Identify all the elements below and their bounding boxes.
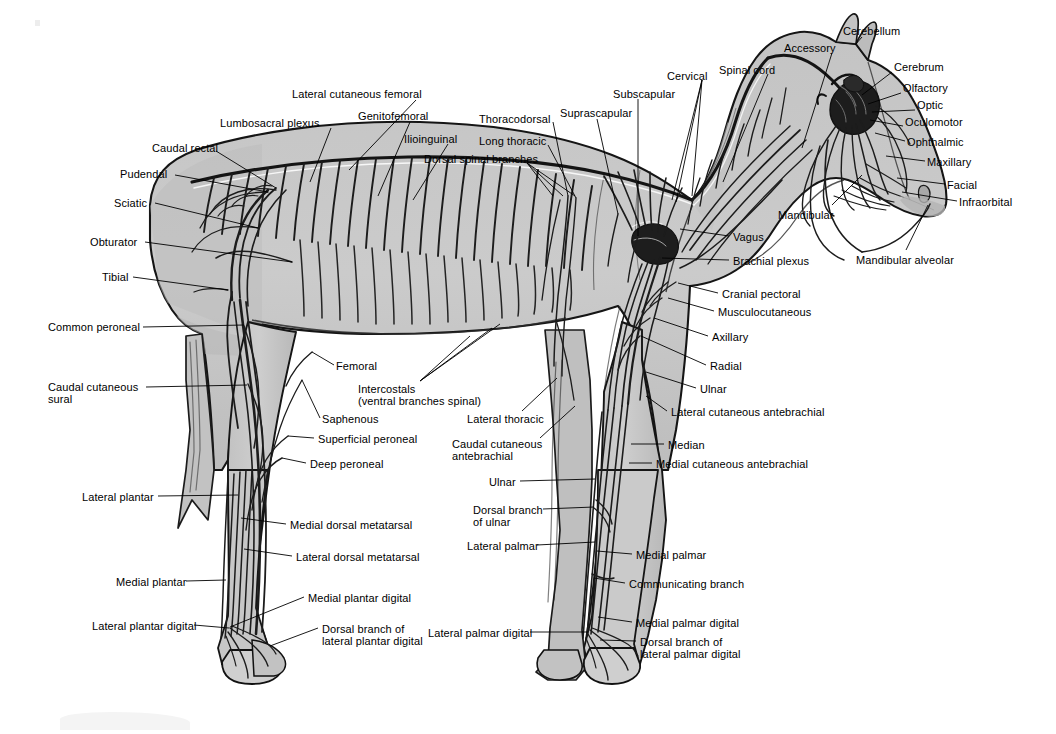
leader-femoral bbox=[312, 352, 334, 365]
label-optic: Optic bbox=[917, 99, 943, 111]
label-maxillary: Maxillary bbox=[927, 156, 971, 168]
label-cerebrum: Cerebrum bbox=[894, 61, 944, 73]
label-pudendal: Pudendal bbox=[120, 168, 167, 180]
label-accessory: Accessory bbox=[784, 42, 836, 54]
label-dorsal-spinal-branches: Dorsal spinal branches bbox=[424, 153, 538, 165]
label-cerebellum: Cerebellum bbox=[843, 25, 900, 37]
label-superficial-peroneal: Superficial peroneal bbox=[318, 433, 417, 445]
label-mandibular-alveolar: Mandibular alveolar bbox=[856, 254, 954, 266]
label-suprascapular: Suprascapular bbox=[560, 107, 632, 119]
label-dorsal-branch-of-ulnar: Dorsal branch of ulnar bbox=[473, 504, 543, 529]
leader-superficial-peroneal bbox=[288, 436, 314, 438]
label-saphenous: Saphenous bbox=[322, 413, 379, 425]
label-medial-cutaneous-antebrachial: Medial cutaneous antebrachial bbox=[656, 458, 808, 470]
label-ulnar-upper: Ulnar bbox=[700, 383, 727, 395]
label-infraorbital: Infraorbital bbox=[959, 196, 1012, 208]
label-medial-palmar: Medial palmar bbox=[636, 549, 706, 561]
label-cervical: Cervical bbox=[667, 70, 708, 82]
label-deep-peroneal: Deep peroneal bbox=[310, 458, 383, 470]
label-oculomotor: Oculomotor bbox=[905, 116, 963, 128]
label-communicating-branch: Communicating branch bbox=[629, 578, 744, 590]
label-obturator: Obturator bbox=[90, 236, 137, 248]
anatomical-diagram-page: Lateral cutaneous femoralLumbosacral ple… bbox=[0, 0, 1056, 734]
label-musculocutaneous: Musculocutaneous bbox=[718, 306, 811, 318]
label-median: Median bbox=[668, 439, 705, 451]
label-caudal-cutaneous-sural: Caudal cutaneous sural bbox=[48, 381, 138, 406]
label-spinal-cord: Spinal cord bbox=[719, 64, 775, 76]
label-intercostals: Intercostals (ventral branches spinal) bbox=[358, 383, 481, 408]
label-thoracodorsal: Thoracodorsal bbox=[479, 113, 551, 125]
label-dorsal-branch-lateral-palmar-digital: Dorsal branch of lateral palmar digital bbox=[640, 636, 741, 661]
label-sciatic: Sciatic bbox=[114, 197, 147, 209]
label-common-peroneal: Common peroneal bbox=[48, 321, 140, 333]
label-medial-plantar-digital: Medial plantar digital bbox=[308, 592, 411, 604]
leader-dorsal-branch-lateral-plantar-digital bbox=[270, 628, 318, 646]
label-lateral-cutaneous-antebrachial: Lateral cutaneous antebrachial bbox=[671, 406, 824, 418]
label-lateral-thoracic: Lateral thoracic bbox=[467, 413, 544, 425]
label-lateral-dorsal-metatarsal: Lateral dorsal metatarsal bbox=[296, 551, 420, 563]
label-lateral-palmar: Lateral palmar bbox=[467, 540, 539, 552]
label-dorsal-branch-lateral-plantar-digital: Dorsal branch of lateral plantar digital bbox=[322, 623, 423, 648]
label-genitofemoral: Genitofemoral bbox=[358, 110, 428, 122]
label-medial-dorsal-metatarsal: Medial dorsal metatarsal bbox=[290, 519, 412, 531]
label-medial-palmar-digital: Medial palmar digital bbox=[636, 617, 739, 629]
label-tibial: Tibial bbox=[102, 271, 128, 283]
label-caudal-rectal: Caudal rectal bbox=[152, 142, 218, 154]
label-lumbosacral-plexus: Lumbosacral plexus bbox=[220, 117, 320, 129]
label-caudal-cutaneous-antebrachial: Caudal cutaneous antebrachial bbox=[452, 438, 542, 463]
label-mandibular: Mandibular bbox=[778, 209, 833, 221]
label-olfactory: Olfactory bbox=[903, 82, 948, 94]
label-ilioinguinal: Ilioinguinal bbox=[404, 133, 457, 145]
label-subscapular: Subscapular bbox=[613, 88, 675, 100]
label-vagus: Vagus bbox=[733, 231, 764, 243]
label-brachial-plexus: Brachial plexus bbox=[733, 255, 809, 267]
label-axillary: Axillary bbox=[712, 331, 748, 343]
leader-saphenous bbox=[302, 380, 320, 418]
scan-edge-artifact bbox=[60, 712, 190, 730]
label-radial: Radial bbox=[710, 360, 742, 372]
cervical-leader-fork bbox=[672, 80, 702, 200]
label-lateral-palmar-digital: Lateral palmar digital bbox=[428, 627, 532, 639]
label-femoral: Femoral bbox=[336, 360, 377, 372]
label-ophthalmic: Ophthalmic bbox=[907, 136, 964, 148]
label-ulnar-lower: Ulnar bbox=[489, 476, 516, 488]
label-cranial-pectoral: Cranial pectoral bbox=[722, 288, 801, 300]
leader-deep-peroneal bbox=[282, 458, 306, 463]
label-long-thoracic: Long thoracic bbox=[479, 135, 546, 147]
label-lateral-plantar-digital: Lateral plantar digital bbox=[92, 620, 196, 632]
label-facial: Facial bbox=[947, 179, 977, 191]
leader-lateral-plantar bbox=[158, 495, 238, 496]
label-lateral-plantar: Lateral plantar bbox=[82, 491, 154, 503]
label-lateral-cutaneous-femoral: Lateral cutaneous femoral bbox=[292, 88, 422, 100]
leader-lateral-plantar-digital bbox=[194, 625, 229, 628]
label-medial-plantar: Medial plantar bbox=[116, 576, 187, 588]
leader-medial-plantar bbox=[186, 580, 226, 581]
